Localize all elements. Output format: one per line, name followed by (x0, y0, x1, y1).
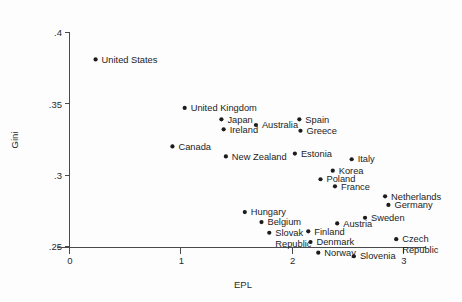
point-marker[interactable] (316, 251, 320, 255)
point-marker[interactable] (94, 57, 98, 61)
data-points-layer: United StatesUnited KingdomJapanIrelandC… (94, 55, 442, 262)
point-label: Norway (324, 248, 356, 258)
point-marker[interactable] (243, 210, 247, 214)
data-point[interactable]: Slovenia (352, 251, 397, 261)
point-label: Canada (178, 142, 211, 152)
data-point[interactable]: Ireland (222, 125, 259, 135)
point-label: United Kingdom (191, 103, 257, 113)
point-label: Japan (227, 115, 252, 125)
point-marker[interactable] (331, 169, 335, 173)
point-label: Greece (306, 126, 337, 136)
point-marker[interactable] (298, 129, 302, 133)
data-point[interactable]: Estonia (293, 149, 333, 159)
point-marker[interactable] (259, 220, 263, 224)
point-marker[interactable] (383, 194, 387, 198)
data-point[interactable]: Germany (386, 200, 433, 210)
point-label: Spain (305, 115, 329, 125)
data-point[interactable]: Hungary (243, 207, 287, 217)
point-marker[interactable] (333, 184, 337, 188)
point-marker[interactable] (267, 231, 271, 235)
point-marker[interactable] (222, 127, 226, 131)
data-point[interactable]: Canada (170, 142, 211, 152)
scatter-plot-panel: .25.3.35.4 0123 United StatesUnited King… (0, 0, 462, 302)
point-label-continuation: Republic (402, 245, 439, 255)
data-point[interactable]: Japan (219, 115, 252, 125)
y-tick-label: .4 (54, 27, 62, 38)
figure-canvas: .25.3.35.4 0123 United StatesUnited King… (0, 0, 462, 302)
point-label: Australia (262, 120, 299, 130)
data-point[interactable]: Greece (298, 126, 337, 136)
y-axis: .25.3.35.4 (49, 27, 70, 252)
y-axis-title: Gini (9, 132, 20, 149)
point-label: Finland (314, 227, 345, 237)
point-marker[interactable] (293, 151, 297, 155)
point-label: New Zealand (232, 152, 287, 162)
point-marker[interactable] (254, 123, 258, 127)
point-marker[interactable] (224, 154, 228, 158)
point-label: Italy (358, 154, 375, 164)
point-label-continuation: Republic (275, 239, 312, 249)
x-tick-label: 2 (290, 255, 295, 266)
x-tick-label: 3 (401, 255, 406, 266)
x-axis-title: EPL (234, 279, 252, 290)
data-point[interactable]: Norway (316, 248, 356, 258)
point-marker[interactable] (183, 106, 187, 110)
point-marker[interactable] (297, 117, 301, 121)
data-point[interactable]: New Zealand (224, 152, 287, 162)
data-point[interactable]: United Kingdom (183, 103, 258, 113)
point-label: Germany (394, 200, 433, 210)
point-marker[interactable] (394, 237, 398, 241)
data-point[interactable]: Finland (306, 227, 345, 237)
point-label: Estonia (301, 149, 333, 159)
data-point[interactable]: Slovak (267, 228, 303, 238)
data-point[interactable]: Belgium (259, 217, 301, 227)
x-tick-label: 0 (67, 255, 72, 266)
data-point[interactable]: Spain (297, 115, 329, 125)
data-point[interactable]: United States (94, 55, 158, 65)
point-marker[interactable] (335, 221, 339, 225)
point-marker[interactable] (306, 229, 310, 233)
data-point[interactable]: Denmark (308, 237, 354, 247)
point-label: Slovenia (360, 251, 396, 261)
y-tick-label: .3 (54, 170, 62, 181)
point-marker[interactable] (350, 157, 354, 161)
y-tick-label: .25 (49, 241, 62, 252)
point-label: United States (102, 55, 158, 65)
point-label: Sweden (371, 213, 405, 223)
point-marker[interactable] (386, 203, 390, 207)
point-label: Czech (402, 234, 428, 244)
point-label: Slovak (275, 228, 303, 238)
point-label: Denmark (316, 237, 354, 247)
point-label: Hungary (251, 207, 286, 217)
point-label: Ireland (230, 125, 258, 135)
data-point[interactable]: Czech (394, 234, 428, 244)
x-tick-label: 1 (179, 255, 184, 266)
data-point[interactable]: Australia (254, 120, 299, 130)
point-label: Belgium (267, 217, 301, 227)
point-marker[interactable] (219, 117, 223, 121)
y-tick-label: .35 (49, 99, 62, 110)
scatter-chart-svg: .25.3.35.4 0123 United StatesUnited King… (0, 0, 462, 302)
point-marker[interactable] (170, 144, 174, 148)
point-label: France (341, 182, 370, 192)
data-point[interactable]: Italy (350, 154, 376, 164)
point-marker[interactable] (352, 254, 356, 258)
point-marker[interactable] (318, 177, 322, 181)
point-label: Austria (343, 219, 373, 229)
